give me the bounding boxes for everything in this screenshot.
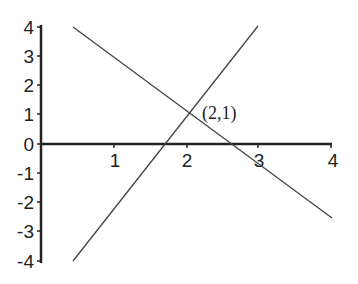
x-tick-labels: 1 2 3 4 — [110, 150, 339, 171]
svg-text:3: 3 — [254, 150, 265, 171]
y-tick-labels: 4 3 2 1 0 -1 -2 -3 -4 — [17, 17, 34, 272]
svg-text:2: 2 — [23, 75, 34, 96]
intersection-label: (2,1) — [202, 103, 237, 124]
svg-text:2: 2 — [182, 150, 193, 171]
svg-text:-4: -4 — [17, 251, 34, 272]
svg-text:-3: -3 — [17, 221, 34, 242]
svg-text:4: 4 — [328, 150, 339, 171]
svg-text:-1: -1 — [17, 163, 34, 184]
svg-text:1: 1 — [23, 104, 34, 125]
line-chart: 4 3 2 1 0 -1 -2 -3 -4 1 2 3 4 (2,1) — [0, 0, 358, 284]
svg-text:1: 1 — [110, 150, 121, 171]
svg-text:-2: -2 — [17, 192, 34, 213]
svg-text:4: 4 — [23, 17, 34, 38]
svg-text:3: 3 — [23, 46, 34, 67]
svg-text:0: 0 — [23, 134, 34, 155]
